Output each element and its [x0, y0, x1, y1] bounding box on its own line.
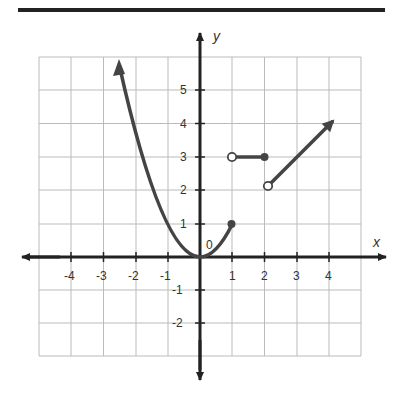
y-axis-label: y [212, 28, 221, 44]
open-point-2-2 [264, 182, 272, 190]
y-tick-label: 3 [180, 150, 187, 164]
y-tick-label: 4 [180, 117, 187, 131]
y-tick-label: -1 [172, 283, 183, 297]
x-tick-label: -3 [96, 269, 107, 283]
closed-point-1-1 [228, 220, 236, 228]
y-tick-label: 1 [180, 217, 187, 231]
x-tick-label: -4 [64, 269, 75, 283]
function-graph: -4 -3 -2 -1 1 2 3 4 5 4 3 2 1 -1 -2 x y … [0, 0, 404, 397]
y-tick-label: -2 [172, 316, 183, 330]
y-tick-label: 2 [180, 183, 187, 197]
parabola-arrow-icon [113, 59, 125, 76]
x-axis-label: x [372, 234, 381, 250]
open-point-1-3 [228, 153, 236, 161]
y-tick-label: 5 [180, 83, 187, 97]
x-tick-label: 2 [261, 269, 268, 283]
x-tick-label: 4 [325, 269, 332, 283]
x-tick-label: -2 [128, 269, 139, 283]
x-tick-label: 1 [229, 269, 236, 283]
closed-point-2-3 [261, 153, 269, 161]
linear-ray [268, 121, 333, 186]
origin-label: 0 [206, 238, 213, 252]
x-tick-label: -1 [160, 269, 171, 283]
x-tick-label: 3 [293, 269, 300, 283]
